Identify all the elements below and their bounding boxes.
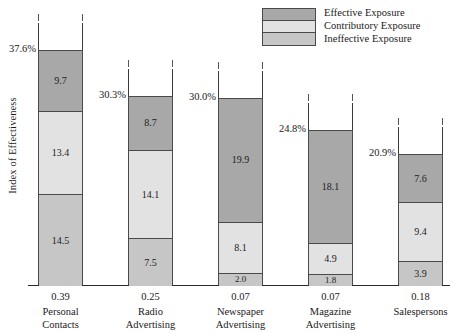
plot-area: 9.713.414.537.6%0.39PersonalContacts8.71… xyxy=(0,0,456,333)
bar-total-percent-label: 24.8% xyxy=(268,123,306,134)
bar-segment-ineffective[interactable]: 2.0 xyxy=(219,274,262,287)
bar-segment-effective[interactable]: 19.9 xyxy=(219,99,262,223)
whisker-tick-dot-left xyxy=(398,123,399,125)
bar-segment-value: 9.4 xyxy=(414,227,427,237)
bar-total-percent-label: 30.0% xyxy=(178,91,216,102)
bar-whisker-left xyxy=(398,127,399,154)
whisker-tick-dot-right xyxy=(442,123,443,125)
bar-segment-value: 1.8 xyxy=(325,276,336,285)
category-label-line1: Salespersons xyxy=(361,306,456,319)
bar-whisker-right xyxy=(442,127,443,154)
bar-total-percent-label: 20.9% xyxy=(358,147,396,158)
bar-segment-ineffective[interactable]: 3.9 xyxy=(399,262,442,286)
bar-segment-value: 7.5 xyxy=(144,258,157,268)
bar-whisker-right xyxy=(262,71,263,98)
bar-stack[interactable]: 9.713.414.5 xyxy=(38,50,83,285)
bar-segment-value: 14.5 xyxy=(52,236,70,246)
bar-below-value: 0.18 xyxy=(366,291,456,302)
bar-segment-value: 7.6 xyxy=(414,174,427,184)
whisker-tick-dot-right xyxy=(82,19,83,21)
bar-group: 18.14.91.8 xyxy=(308,130,353,285)
bar-segment-value: 3.9 xyxy=(414,269,427,279)
whisker-tick-dot-right xyxy=(172,65,173,67)
bar-group: 9.713.414.5 xyxy=(38,50,83,285)
bar-whisker-left xyxy=(38,23,39,50)
bar-whisker-left xyxy=(128,69,129,96)
bar-group: 7.69.43.9 xyxy=(398,154,443,285)
bar-segment-ineffective[interactable]: 14.5 xyxy=(39,195,82,286)
bar-stack[interactable]: 8.714.17.5 xyxy=(128,96,173,285)
stacked-bar-chart: Index of Effectiveness 9.713.414.537.6%0… xyxy=(0,0,456,333)
bar-stack[interactable]: 7.69.43.9 xyxy=(398,154,443,285)
bar-segment-value: 8.1 xyxy=(234,243,247,253)
bar-whisker-right xyxy=(172,69,173,96)
bar-segment-value: 9.7 xyxy=(54,76,67,86)
bar-total-percent-label: 30.3% xyxy=(88,89,126,100)
legend-label-contributory: Contributory Exposure xyxy=(324,19,421,32)
whisker-tick-dot-left xyxy=(308,99,309,101)
bar-segment-ineffective[interactable]: 7.5 xyxy=(129,239,172,286)
bar-group: 19.98.12.0 xyxy=(218,98,263,286)
bar-segment-effective[interactable]: 8.7 xyxy=(129,97,172,151)
bar-segment-value: 4.9 xyxy=(324,254,337,264)
whisker-tick-dot-left xyxy=(218,67,219,69)
bar-segment-value: 14.1 xyxy=(142,190,160,200)
whisker-tick-dot-right xyxy=(352,99,353,101)
bar-segment-contributory[interactable]: 14.1 xyxy=(129,151,172,239)
legend-swatch-group xyxy=(262,8,316,46)
legend-swatch-contributory xyxy=(263,21,315,33)
bar-segment-effective[interactable]: 9.7 xyxy=(39,51,82,112)
legend-swatch-effective xyxy=(263,9,315,21)
bar-category-label: Salespersons xyxy=(361,306,456,319)
bar-stack[interactable]: 18.14.91.8 xyxy=(308,130,353,285)
legend-swatch-ineffective xyxy=(263,33,315,45)
legend-label-effective: Effective Exposure xyxy=(324,6,421,19)
bar-whisker-right xyxy=(82,23,83,50)
bar-segment-contributory[interactable]: 13.4 xyxy=(39,112,82,196)
bar-segment-contributory[interactable]: 8.1 xyxy=(219,223,262,274)
legend-label-ineffective: Ineffective Exposure xyxy=(324,32,421,45)
bar-segment-value: 13.4 xyxy=(52,148,70,158)
bar-segment-value: 19.9 xyxy=(232,155,250,165)
bar-whisker-right xyxy=(352,103,353,130)
bar-segment-value: 2.0 xyxy=(235,275,246,284)
bar-whisker-left xyxy=(308,103,309,130)
bar-total-percent-label: 37.6% xyxy=(0,43,36,54)
bar-segment-contributory[interactable]: 4.9 xyxy=(309,244,352,275)
bar-segment-effective[interactable]: 18.1 xyxy=(309,131,352,244)
bar-stack[interactable]: 19.98.12.0 xyxy=(218,98,263,286)
legend-label-group: Effective ExposureContributory ExposureI… xyxy=(324,6,421,45)
bar-segment-ineffective[interactable]: 1.8 xyxy=(309,275,352,286)
bar-group: 8.714.17.5 xyxy=(128,96,173,285)
whisker-tick-dot-left xyxy=(38,19,39,21)
whisker-tick-dot-right xyxy=(262,67,263,69)
category-label-line2: Advertising xyxy=(271,319,391,332)
bar-segment-contributory[interactable]: 9.4 xyxy=(399,203,442,262)
whisker-tick-dot-left xyxy=(128,65,129,67)
bar-segment-value: 8.7 xyxy=(144,118,157,128)
bar-segment-effective[interactable]: 7.6 xyxy=(399,155,442,203)
bar-segment-value: 18.1 xyxy=(322,182,340,192)
bar-whisker-left xyxy=(218,71,219,98)
